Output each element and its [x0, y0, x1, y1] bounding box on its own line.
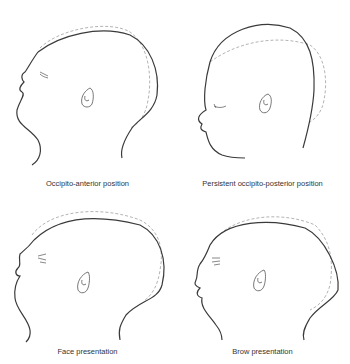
head-face-presentation: [15, 212, 164, 342]
ear-icon: [78, 272, 90, 293]
caption-persistent-occipito-posterior: Persistent occipito-posterior position: [175, 179, 350, 188]
eye-icon: [38, 254, 46, 263]
face-profile: [15, 240, 34, 342]
caption-face-presentation: Face presentation: [0, 347, 175, 356]
caption-brow-presentation: Brow presentation: [175, 347, 350, 356]
face-profile: [195, 245, 222, 340]
dashed-reference-outline: [210, 217, 331, 310]
cutoff-caption-line: · · · · · · · · · · · · · · · · · · · · …: [0, 359, 350, 364]
head-outline: [34, 219, 164, 340]
dashed-reference-outline: [210, 40, 326, 122]
eye-icon: [214, 104, 226, 108]
ear-icon: [254, 270, 266, 291]
head-brow-presentation: [195, 217, 338, 340]
eye-icon: [212, 258, 220, 265]
face-profile: [199, 62, 245, 158]
ear-icon: [259, 94, 271, 113]
ear-icon: [82, 88, 94, 107]
dashed-reference-outline: [32, 212, 161, 300]
head-persistent-occipito-posterior: [199, 25, 326, 158]
head-occipito-anterior: [17, 26, 158, 165]
head-outline: [38, 31, 158, 158]
face-profile: [17, 52, 41, 165]
head-outline: [210, 25, 314, 148]
caption-occipito-anterior: Occipito-anterior position: [0, 179, 175, 188]
cutoff-caption-text: · · · · · · · · · · · · · · · · · · · · …: [0, 359, 350, 362]
eye-icon: [40, 72, 48, 78]
head-outline: [210, 222, 338, 340]
